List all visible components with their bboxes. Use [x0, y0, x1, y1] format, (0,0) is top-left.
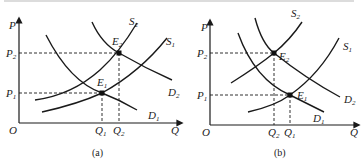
curve-label-s2: S2	[291, 7, 301, 21]
price-label-p2: P2	[5, 47, 17, 61]
equilibrium-label-e2: E2	[111, 35, 123, 49]
y-axis-label: P	[8, 19, 16, 31]
origin-label: O	[202, 126, 210, 138]
curve-label-s2: S2	[129, 15, 139, 29]
curve-label-d2: D2	[167, 86, 180, 100]
equilibrium-label-e1: E1	[296, 89, 307, 103]
supply-curve-s2	[231, 22, 302, 83]
clipped-header-text	[4, 0, 354, 2]
panel-caption-b: (b)	[274, 147, 286, 159]
curve-label-d1: D1	[147, 109, 159, 123]
curve-label-d1: D1	[312, 112, 324, 126]
equilibrium-point-e2	[272, 51, 277, 56]
equilibrium-point-e1	[100, 91, 105, 96]
y-axis-label: P	[200, 21, 208, 33]
demand-curve-d1	[46, 35, 137, 110]
price-label-p2: P2	[196, 47, 208, 61]
equilibrium-point-e2	[117, 51, 122, 56]
curve-label-s1: S1	[166, 35, 175, 49]
quantity-label-q1: Q1	[284, 126, 295, 140]
equilibrium-point-e1	[288, 93, 293, 98]
panel-b: P Q O P2 P1 Q2 Q1 S2 S1 D2 D1 E2 E1 (b)	[196, 7, 358, 159]
quantity-label-q2: Q2	[113, 124, 125, 138]
price-label-p1: P1	[5, 87, 16, 101]
supply-demand-figure: P Q O P2 P1 Q1 Q2 S2 S1 D2 D1 E1 E2 (a)	[0, 0, 361, 161]
x-axis-label: Q	[171, 124, 179, 136]
supply-curve-s2	[35, 23, 137, 100]
equilibrium-label-e1: E1	[96, 76, 107, 90]
supply-curve-s1	[42, 38, 167, 112]
panel-caption-a: (a)	[92, 147, 103, 159]
x-axis-label: Q	[350, 126, 358, 138]
curve-label-d2: D2	[343, 93, 356, 107]
origin-label: O	[9, 124, 17, 136]
price-label-p1: P1	[196, 89, 207, 103]
curve-label-s1: S1	[343, 40, 352, 54]
quantity-label-q1: Q1	[95, 124, 106, 138]
panel-a: P Q O P2 P1 Q1 Q2 S2 S1 D2 D1 E1 E2 (a)	[5, 15, 180, 159]
equilibrium-label-e2: E2	[278, 50, 290, 64]
quantity-label-q2: Q2	[268, 126, 280, 140]
